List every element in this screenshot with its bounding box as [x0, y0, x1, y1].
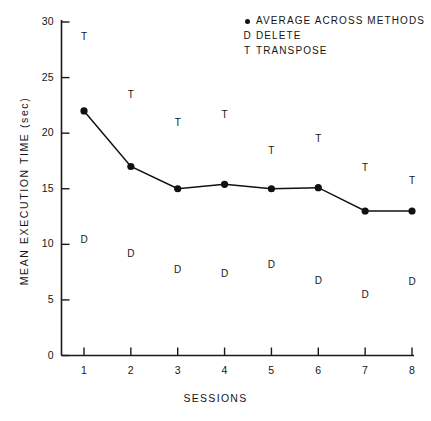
chart-figure: 051015202530 12345678 DDDDDDDDTTTTTTTT M…	[0, 0, 431, 421]
data-marker-t: T	[128, 89, 134, 100]
y-tick-label: 25	[12, 71, 54, 83]
data-marker-t: T	[268, 144, 274, 155]
data-marker-t: T	[315, 132, 321, 143]
plot-canvas	[0, 0, 431, 421]
data-marker-t: T	[222, 109, 228, 120]
data-marker-t: T	[175, 117, 181, 128]
x-tick-label: 5	[251, 364, 291, 376]
x-tick-label: 2	[111, 364, 151, 376]
data-marker-d: D	[221, 268, 228, 279]
y-tick-label: 5	[12, 293, 54, 305]
data-marker-d: D	[127, 248, 134, 259]
y-axis-title: MEAN EXECUTION TIME (sec)	[18, 91, 30, 291]
data-marker-d: D	[315, 274, 322, 285]
x-tick-label: 3	[158, 364, 198, 376]
x-tick-label: 1	[64, 364, 104, 376]
legend-d-icon: D	[238, 30, 256, 41]
data-marker-d: D	[362, 289, 369, 300]
legend-label-transpose: TRANSPOSE	[256, 45, 328, 56]
x-tick-label: 6	[298, 364, 338, 376]
legend-label-delete: DELETE	[256, 30, 302, 41]
legend-label-average: AVERAGE ACROSS METHODS	[256, 15, 425, 26]
x-tick-label: 4	[205, 364, 245, 376]
y-tick-label: 30	[12, 15, 54, 27]
data-marker-t: T	[81, 31, 87, 42]
x-tick-label: 8	[392, 364, 431, 376]
legend-item-average: AVERAGE ACROSS METHODS	[238, 13, 425, 27]
axis-lines	[62, 20, 415, 356]
legend-item-transpose: T TRANSPOSE	[238, 43, 425, 57]
data-marker-t: T	[362, 161, 368, 172]
data-marker-t: T	[409, 174, 415, 185]
data-marker-d: D	[80, 233, 87, 244]
chart-legend: AVERAGE ACROSS METHODS D DELETE T TRANSP…	[238, 13, 425, 58]
legend-item-delete: D DELETE	[238, 28, 425, 42]
x-tick-label: 7	[345, 364, 385, 376]
x-axis-ticks	[84, 348, 412, 356]
y-axis-ticks	[62, 22, 70, 356]
x-axis-title: SESSIONS	[0, 392, 431, 404]
data-marker-d: D	[174, 263, 181, 274]
legend-t-icon: T	[238, 45, 256, 56]
legend-dot-icon	[238, 15, 256, 26]
y-tick-label: 0	[12, 349, 54, 361]
data-marker-d: D	[408, 276, 415, 287]
data-marker-d: D	[268, 259, 275, 270]
